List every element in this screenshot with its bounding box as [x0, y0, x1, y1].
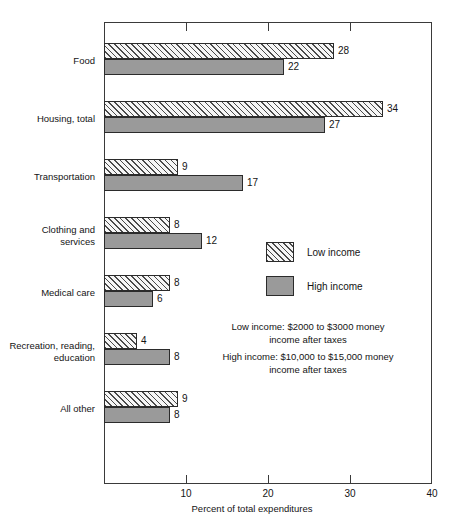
tick-top-20 — [268, 23, 269, 31]
bar-value-low-medical-care: 8 — [174, 275, 180, 291]
bar-low-medical-care — [104, 275, 170, 291]
bar-low-clothing-and-services — [104, 217, 170, 233]
bar-value-high-food: 22 — [288, 59, 299, 75]
bar-value-high-recreation-reading-education: 8 — [174, 349, 180, 365]
bar-value-high-housing-total: 27 — [329, 117, 340, 133]
note-low-income-line2: income after taxes — [190, 333, 426, 346]
bar-low-transportation — [104, 159, 178, 175]
legend-swatch-high-income — [266, 276, 294, 296]
bar-value-high-transportation: 17 — [247, 175, 258, 191]
chart-notes: Low income: $2000 to $3000 money income … — [190, 320, 426, 380]
category-label-medical-care: Medical care — [3, 287, 95, 299]
note-high-income-line1: High income: $10,000 to $15,000 money — [190, 350, 426, 363]
bar-value-low-all-other: 9 — [182, 391, 188, 407]
tick-bottom-30 — [350, 475, 351, 483]
tick-bottom-10 — [186, 475, 187, 483]
bar-high-all-other — [104, 407, 170, 423]
bar-low-all-other — [104, 391, 178, 407]
bar-value-low-clothing-and-services: 8 — [174, 217, 180, 233]
tick-top-10 — [186, 23, 187, 31]
category-label-housing-total: Housing, total — [3, 113, 95, 125]
category-label-food: Food — [3, 55, 95, 67]
bar-high-clothing-and-services — [104, 233, 202, 249]
bar-value-low-housing-total: 34 — [387, 101, 398, 117]
bar-high-recreation-reading-education — [104, 349, 170, 365]
xtick-label-10: 10 — [166, 488, 206, 499]
legend-label-low-income: Low income — [307, 247, 360, 258]
note-low-income-line1: Low income: $2000 to $3000 money — [190, 320, 426, 333]
xtick-label-30: 30 — [330, 488, 370, 499]
bar-value-low-transportation: 9 — [182, 159, 188, 175]
bar-low-housing-total — [104, 101, 383, 117]
tick-bottom-20 — [268, 475, 269, 483]
bar-value-high-clothing-and-services: 12 — [206, 233, 217, 249]
bar-high-food — [104, 59, 284, 75]
x-axis-title: Percent of total expenditures — [192, 503, 313, 514]
bar-value-high-all-other: 8 — [174, 407, 180, 423]
category-label-clothing-and-services: Clothing and services — [3, 224, 95, 247]
legend-swatch-low-income — [266, 242, 294, 262]
bar-high-transportation — [104, 175, 243, 191]
category-label-recreation-reading-education: Recreation, reading, education — [3, 340, 95, 363]
note-low-income: Low income: $2000 to $3000 money income … — [190, 320, 426, 346]
bar-high-housing-total — [104, 117, 325, 133]
xtick-label-20: 20 — [248, 488, 288, 499]
note-high-income-line2: income after taxes — [190, 363, 426, 376]
bar-high-medical-care — [104, 291, 153, 307]
bar-value-high-medical-care: 6 — [157, 291, 163, 307]
xtick-label-40: 40 — [412, 488, 452, 499]
bar-low-food — [104, 43, 334, 59]
chart-legend: Low income High income — [266, 242, 363, 310]
x-axis-title-wrapper: Percent of total expenditures — [0, 503, 452, 514]
legend-item-high-income: High income — [266, 276, 363, 296]
bar-low-recreation-reading-education — [104, 333, 137, 349]
bar-value-low-food: 28 — [338, 43, 349, 59]
legend-item-low-income: Low income — [266, 242, 363, 262]
expenditure-bar-chart: Food Housing, total Transportation Cloth… — [0, 0, 452, 526]
tick-top-30 — [350, 23, 351, 31]
category-label-transportation: Transportation — [3, 171, 95, 183]
category-label-all-other: All other — [3, 403, 95, 415]
bar-value-low-recreation-reading-education: 4 — [141, 333, 147, 349]
note-high-income: High income: $10,000 to $15,000 money in… — [190, 350, 426, 376]
legend-label-high-income: High income — [307, 281, 363, 292]
